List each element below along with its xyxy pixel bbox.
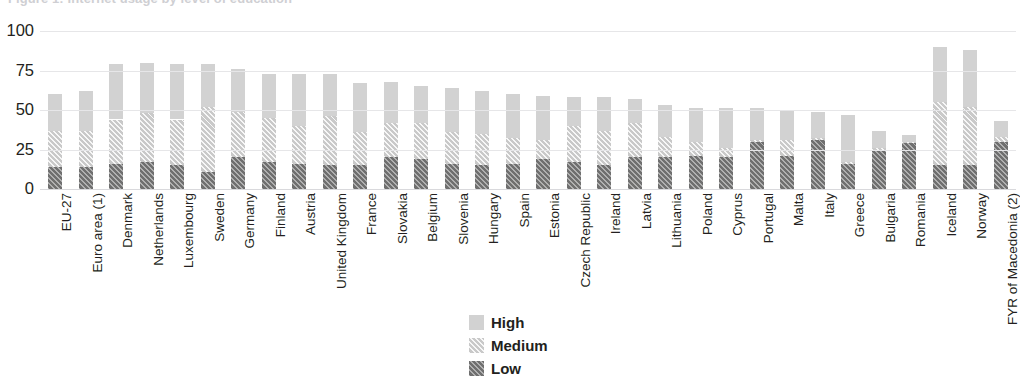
bar-segment-low [48,167,62,189]
bar-segment-medium [323,116,337,165]
bar-segment-low [109,164,123,189]
bar-segment-medium [658,137,672,158]
x-tick-label: Portugal [762,193,776,243]
x-tick-label: Denmark [121,193,135,248]
bar-segment-high [231,69,245,112]
legend-swatch-icon [469,361,484,376]
x-tick-label: Belgium [426,193,440,242]
legend-item[interactable]: Medium [469,336,548,354]
bar-segment-low [231,157,245,189]
bar-segment-low [719,157,733,189]
gridline-75 [40,71,1016,72]
bar-segment-low [872,150,886,190]
bar-segment-medium [109,120,123,164]
x-tick-label: Czech Republic [579,193,593,288]
bar-segment-high [902,135,916,141]
x-tick-label: Luxembourg [182,193,196,268]
bar-segment-high [353,83,367,132]
x-tick-label: Spain [518,193,532,228]
x-tick-label: Norway [975,193,989,239]
bar-segment-low [170,165,184,189]
x-tick-label: Latvia [640,193,654,229]
x-tick-label: Finland [274,193,288,237]
gridline-100 [40,31,1016,32]
bar-segment-low [689,156,703,189]
bar-segment-low [384,157,398,189]
bar-segment-high [262,74,276,118]
bar-segment-low [658,157,672,189]
bar-segment-high [48,94,62,130]
bar-segment-medium [780,140,794,156]
bar-segment-high [384,82,398,123]
bar-segment-high [933,47,947,102]
x-tick-label: Germany [243,193,257,249]
bar-segment-high [109,64,123,119]
bar-segment-medium [902,142,916,144]
bar-segment-medium [963,107,977,165]
x-tick-label: Bulgaria [884,193,898,243]
x-tick-label: Sweden [213,193,227,242]
bar-segment-high [597,97,611,130]
bar-segment-low [262,162,276,189]
legend-item[interactable]: High [469,313,548,331]
bar-segment-medium [231,112,245,158]
gridline-25 [40,150,1016,151]
bar-segment-medium [506,138,520,163]
bar-segment-high [780,110,794,140]
x-tick-label: Cyprus [731,193,745,236]
y-tick-label: 50 [16,100,34,119]
y-tick-label: 25 [16,140,34,159]
x-tick-label: Hungary [487,193,501,244]
bar-segment-low [506,164,520,189]
bar-segment-low [323,165,337,189]
gridline-50 [40,110,1016,111]
bar-segment-high [536,96,550,140]
bar-segment-low [536,159,550,189]
x-tick-label: Iceland [945,193,959,237]
legend-swatch-icon [469,338,484,353]
bar-segment-high [475,91,489,134]
bar-segment-low [628,157,642,189]
bar-segment-high [841,115,855,162]
x-tick-label: Malta [792,193,806,226]
bar-segment-medium [597,131,611,166]
x-tick-label: Slovenia [457,193,471,245]
bar-segment-low [780,156,794,189]
bar-segment-low [475,165,489,189]
x-tick-label: Lithuania [670,193,684,248]
x-tick-label: France [365,193,379,235]
bar-segment-low [933,165,947,189]
bar-segment-medium [170,120,184,166]
bar-segment-medium [384,123,398,158]
bar-segment-low [811,140,825,189]
bar-segment-low [963,165,977,189]
bar-segment-high [414,86,428,122]
x-tick-label: Italy [823,193,837,218]
bar-segment-high [963,50,977,107]
bar-segment-medium [811,138,825,140]
chart-title-cropped: Figure 1: Internet usage by level of edu… [8,0,292,6]
y-tick-label: 100 [6,21,34,40]
bar-segment-high [292,74,306,126]
bar-segment-low [841,164,855,189]
bar-segment-medium [567,126,581,162]
bar-segment-high [811,112,825,139]
y-tick-label: 0 [25,179,34,198]
chart-legend: HighMediumLow [469,313,548,377]
bar-segment-low [414,159,428,189]
bar-segment-medium [994,137,1008,142]
bar-segment-high [719,108,733,148]
bar-segment-medium [292,126,306,164]
legend-swatch-icon [469,315,484,330]
bar-segment-medium [445,132,459,164]
y-tick-label: 75 [16,61,34,80]
bar-segment-medium [414,123,428,159]
legend-label: High [491,314,524,331]
bar-segment-medium [933,102,947,165]
plot-area [40,31,1016,189]
x-tick-label: Austria [304,193,318,235]
x-tick-label: Slovakia [396,193,410,244]
bar-segment-low [201,172,215,189]
legend-item[interactable]: Low [469,359,548,377]
